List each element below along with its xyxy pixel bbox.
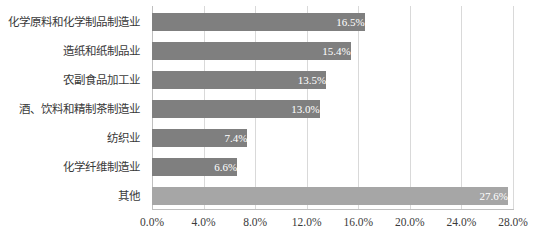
bar-value-label: 6.6%	[152, 158, 242, 176]
bar-row[interactable]: 7.4%	[152, 129, 513, 147]
x-axis-tick-labels: 0.0%4.0%8.0%12.0%16.0%20.0%24.0%28.0%	[0, 213, 540, 233]
bar-row[interactable]: 16.5%	[152, 13, 513, 31]
bar-value-label: 16.5%	[152, 13, 370, 31]
gridline-280	[513, 6, 514, 209]
x-tick-label: 8.0%	[243, 213, 267, 231]
bar-row[interactable]: 13.0%	[152, 100, 513, 118]
category-label: 其他	[0, 187, 146, 205]
category-label: 农副食品加工业	[0, 71, 146, 89]
bar-value-label: 15.4%	[152, 42, 356, 60]
bar-chart: 化学原料和化学制品制造业造纸和纸制品业农副食品加工业酒、饮料和精制茶制造业纺织业…	[0, 0, 540, 245]
category-label: 化学纤维制造业	[0, 158, 146, 176]
x-tick-label: 28.0%	[498, 213, 528, 231]
x-axis-line	[152, 209, 514, 210]
plot-area: 16.5%15.4%13.5%13.0%7.4%6.6%27.6%	[152, 6, 513, 209]
bar-row[interactable]: 6.6%	[152, 158, 513, 176]
x-tick-label: 4.0%	[192, 213, 216, 231]
bar-value-label: 13.5%	[152, 71, 331, 89]
category-label: 纺织业	[0, 129, 146, 147]
bar-row[interactable]: 27.6%	[152, 187, 513, 205]
category-axis: 化学原料和化学制品制造业造纸和纸制品业农副食品加工业酒、饮料和精制茶制造业纺织业…	[0, 6, 146, 209]
x-tick-label: 0.0%	[140, 213, 164, 231]
x-tick-label: 20.0%	[395, 213, 425, 231]
bar-value-label: 27.6%	[152, 187, 513, 205]
bar-row[interactable]: 13.5%	[152, 71, 513, 89]
x-tick-label: 24.0%	[447, 213, 477, 231]
category-label: 化学原料和化学制品制造业	[0, 13, 146, 31]
bar-value-label: 13.0%	[152, 100, 325, 118]
x-tick-label: 16.0%	[343, 213, 373, 231]
bar-value-label: 7.4%	[152, 129, 252, 147]
category-label: 造纸和纸制品业	[0, 42, 146, 60]
x-tick-label: 12.0%	[292, 213, 322, 231]
bar-series: 16.5%15.4%13.5%13.0%7.4%6.6%27.6%	[152, 6, 513, 209]
bar-row[interactable]: 15.4%	[152, 42, 513, 60]
category-label: 酒、饮料和精制茶制造业	[0, 100, 146, 118]
